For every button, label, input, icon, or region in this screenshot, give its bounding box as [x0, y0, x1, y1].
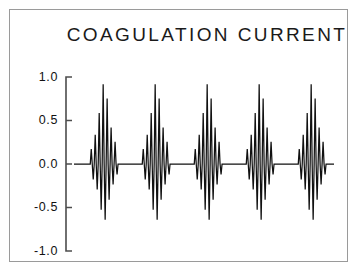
waveform-trace	[74, 84, 334, 220]
y-axis	[66, 77, 72, 251]
chart-figure: COAGULATION CURRENT 1.0 0.5 0.0 -0.5 -1.…	[0, 0, 362, 280]
plot-area	[0, 0, 362, 280]
